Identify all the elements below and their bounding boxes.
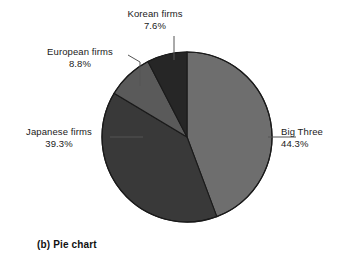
slice-label-big-three: Big Three 44.3%: [281, 126, 343, 150]
slice-label-japanese-firms: Japanese firms 39.3%: [11, 126, 107, 150]
slice-label-european-firms-name: European firms: [33, 46, 127, 58]
slice-label-big-three-value: 44.3%: [281, 138, 343, 150]
slice-label-japanese-firms-name: Japanese firms: [11, 126, 107, 138]
slice-label-japanese-firms-value: 39.3%: [11, 138, 107, 150]
slice-label-european-firms-value: 8.8%: [33, 58, 127, 70]
slice-label-korean-firms-value: 7.6%: [113, 20, 197, 32]
slice-label-european-firms: European firms 8.8%: [33, 46, 127, 70]
pie-chart-figure: Korean firms 7.6% European firms 8.8% Ja…: [0, 0, 346, 272]
slice-label-korean-firms-name: Korean firms: [113, 8, 197, 20]
figure-caption: (b) Pie chart: [37, 239, 97, 250]
slice-label-big-three-name: Big Three: [281, 126, 343, 138]
slice-label-korean-firms: Korean firms 7.6%: [113, 8, 197, 32]
